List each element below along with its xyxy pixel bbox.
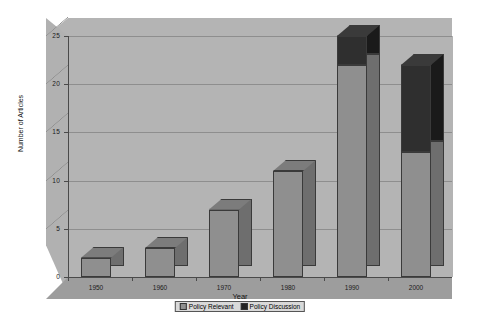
x-tick-mark — [132, 277, 133, 281]
legend-label: Policy Discussion — [250, 303, 301, 310]
bar-front-face — [337, 36, 367, 65]
y-tick-label: 20 — [2, 80, 60, 87]
bar-segment-policy-relevant — [273, 171, 303, 277]
bar-side-face — [303, 160, 316, 266]
x-tick-label: 1990 — [322, 284, 382, 291]
bar-segment-policy-relevant — [209, 210, 239, 277]
y-axis-line — [68, 36, 69, 278]
bar-segment-policy-relevant — [401, 152, 431, 277]
gridline — [68, 229, 452, 230]
y-tick-label: 25 — [2, 32, 60, 39]
bar-2000 — [401, 0, 431, 324]
bar-side-face — [431, 141, 444, 266]
chart-figure: 0510152025 195019601970198019902000 Numb… — [0, 0, 480, 324]
bar-segment-policy-relevant — [81, 258, 111, 277]
gridline — [68, 181, 452, 182]
y-tick-label: 5 — [2, 225, 60, 232]
bar-1960 — [145, 0, 175, 324]
bar-front-face — [209, 210, 239, 277]
x-tick-mark — [196, 277, 197, 281]
bar-1980 — [273, 0, 303, 324]
bar-segment-policy-relevant — [337, 65, 367, 277]
bar-front-face — [401, 152, 431, 277]
gridline — [68, 84, 452, 85]
plot-wall-left — [46, 18, 68, 295]
y-tick-label: 10 — [2, 177, 60, 184]
bar-side-face — [367, 54, 380, 266]
legend-label: Policy Relevant — [189, 303, 234, 310]
bar-front-face — [337, 65, 367, 277]
x-axis-title: Year — [0, 292, 480, 301]
x-tick-label: 1970 — [194, 284, 254, 291]
bar-front-face — [273, 171, 303, 277]
x-tick-label: 1960 — [130, 284, 190, 291]
bar-segment-policy-discussion — [401, 65, 431, 152]
legend-item-policy-relevant: Policy Relevant — [180, 303, 234, 310]
legend-swatch-icon — [180, 303, 187, 310]
x-tick-label: 1950 — [66, 284, 126, 291]
legend-item-policy-discussion: Policy Discussion — [241, 303, 301, 310]
x-tick-mark — [68, 277, 69, 281]
bar-1970 — [209, 0, 239, 324]
y-axis-title: Number of Articles — [17, 44, 24, 204]
chart-legend: Policy Relevant Policy Discussion — [175, 301, 305, 312]
x-tick-label: 2000 — [386, 284, 446, 291]
bar-front-face — [145, 248, 175, 277]
legend-swatch-icon — [241, 303, 248, 310]
y-tick-label: 15 — [2, 128, 60, 135]
gridline — [68, 132, 452, 133]
plot-area — [68, 36, 453, 277]
y-tick-label: 0 — [2, 273, 60, 280]
bar-segment-policy-relevant — [145, 248, 175, 277]
bar-segment-policy-discussion — [337, 36, 367, 65]
bar-1950 — [81, 0, 111, 324]
bar-side-face — [239, 199, 252, 266]
x-tick-mark — [324, 277, 325, 281]
x-tick-mark — [260, 277, 261, 281]
bar-side-face — [431, 54, 444, 141]
gridline — [68, 36, 452, 37]
x-tick-mark — [388, 277, 389, 281]
bar-front-face — [81, 258, 111, 277]
bar-front-face — [401, 65, 431, 152]
x-tick-label: 1980 — [258, 284, 318, 291]
bar-1990 — [337, 0, 367, 324]
